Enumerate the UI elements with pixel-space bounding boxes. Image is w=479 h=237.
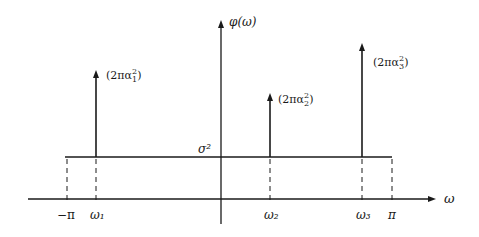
tick-label-omega2: ω₂ [264, 208, 279, 222]
spectrum-diagram: φ(ω) ω σ² (2πα12) (2πα22) (2πα32) −π ω₁ … [0, 0, 479, 237]
label-prefix: (2πα [106, 69, 133, 82]
y-axis-label: φ(ω) [229, 15, 257, 29]
spike-label-1: (2πα12) [106, 67, 141, 84]
dashed-guides [67, 159, 392, 203]
label-suffix: ) [309, 93, 313, 106]
tick-label-omega1: ω₁ [90, 208, 105, 222]
noise-floor-label: σ² [198, 142, 211, 156]
label-suffix: ) [137, 69, 141, 82]
x-axis-label: ω [444, 191, 455, 206]
label-prefix: (2πα [278, 93, 305, 106]
tick-label-neg-pi: −π [57, 208, 75, 222]
tick-label-pi: π [387, 208, 397, 222]
spike-label-3: (2πα32) [373, 54, 408, 71]
spike-label-2: (2πα22) [278, 91, 313, 108]
label-suffix: ) [404, 56, 408, 69]
label-prefix: (2πα [373, 56, 400, 69]
tick-label-omega3: ω₃ [356, 208, 371, 222]
